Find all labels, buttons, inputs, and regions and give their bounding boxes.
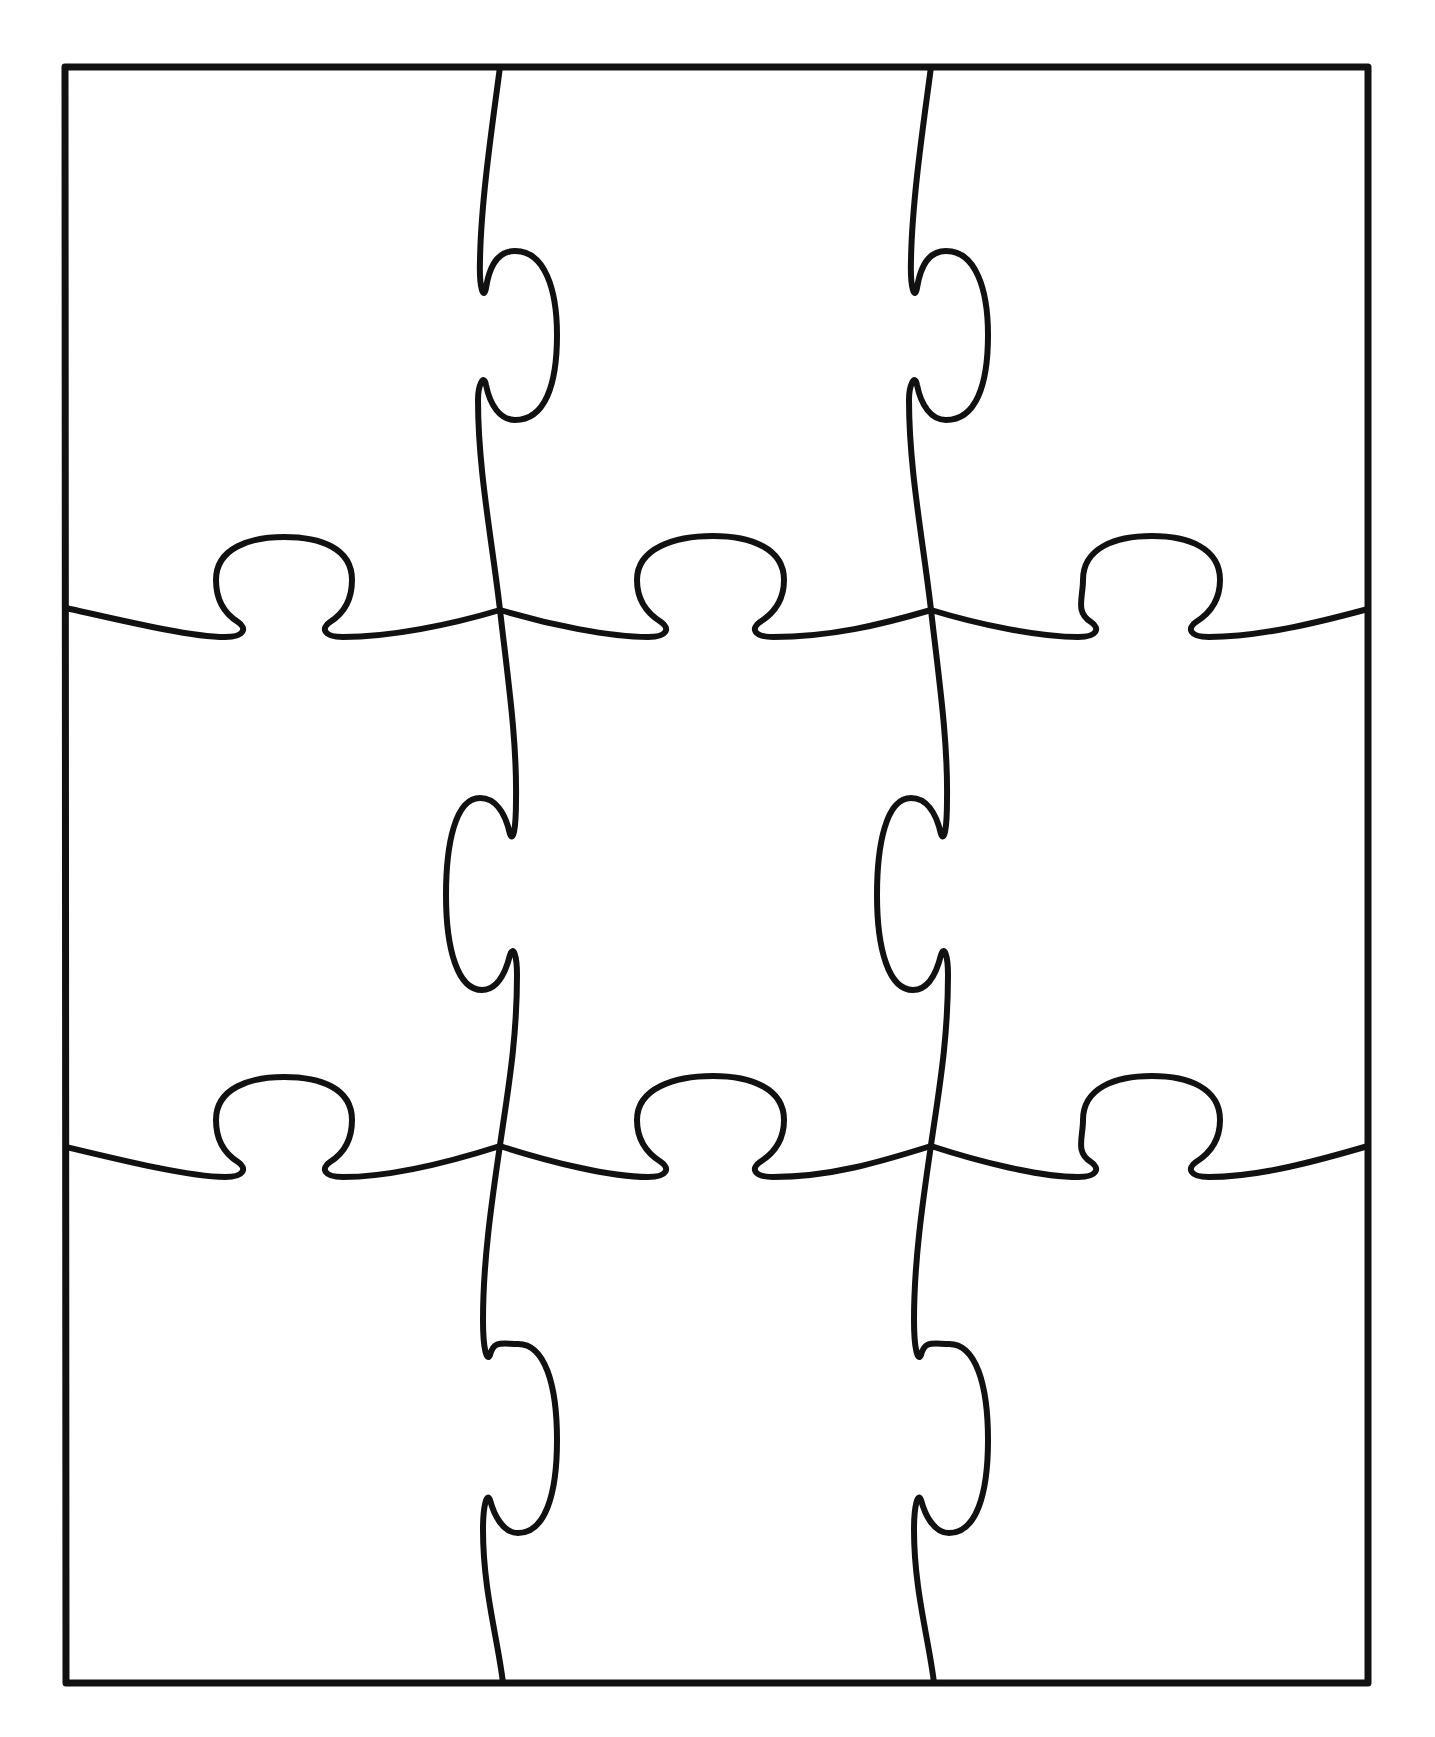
puzzle-piece-r2-c1 — [68, 610, 498, 1146]
puzzle-piece-r2-c2 — [500, 612, 930, 1146]
puzzle-piece-r3-c1 — [68, 1148, 500, 1680]
puzzle-piece-r1-c2 — [500, 70, 930, 612]
puzzle-piece-r3-c2 — [502, 1148, 932, 1680]
puzzle-piece-r2-c3 — [932, 610, 1365, 1146]
puzzle-piece-r3-c3 — [934, 1148, 1365, 1680]
puzzle-piece-r1-c1 — [68, 70, 498, 608]
puzzle-piece-r1-c3 — [932, 70, 1365, 608]
piece-regions — [68, 70, 1365, 1680]
jigsaw-puzzle-diagram — [0, 0, 1435, 1737]
